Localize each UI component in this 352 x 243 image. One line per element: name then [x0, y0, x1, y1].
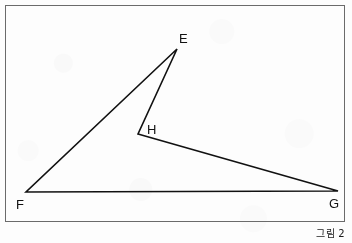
vertex-label-f: F	[16, 197, 24, 212]
quadrilateral-efgh-path	[26, 49, 338, 192]
vertex-label-h: H	[147, 122, 156, 137]
figure-caption: 그림 2	[316, 225, 345, 240]
figure-page: E F G H 그림 2	[0, 0, 352, 243]
vertex-label-g: G	[329, 196, 339, 211]
geometry-figure: E F G H	[0, 0, 352, 243]
figure-frame-box	[6, 6, 345, 222]
vertex-label-e: E	[179, 31, 188, 46]
